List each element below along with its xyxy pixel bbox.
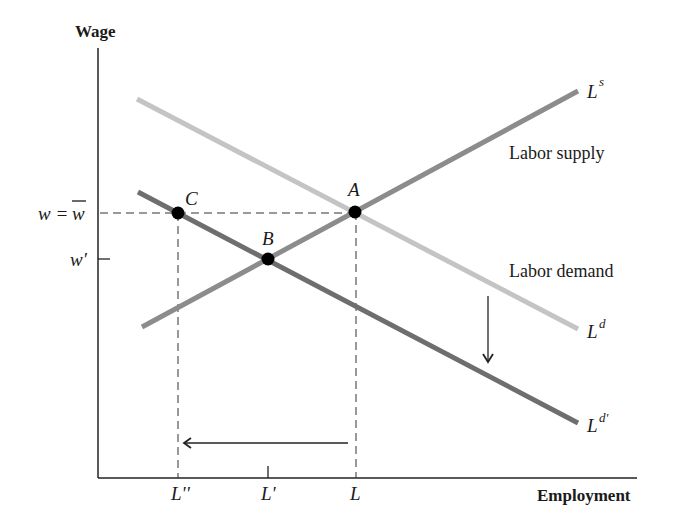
svg-text:L: L [586, 321, 598, 342]
point-c-marker [172, 207, 185, 220]
w-bar-label: w = w [38, 201, 86, 224]
svg-text:s: s [599, 74, 604, 89]
l-double-prime-label: L'' [170, 483, 191, 504]
curves [137, 91, 578, 423]
point-c-label: C [185, 188, 198, 209]
svg-text:w: w [72, 203, 85, 224]
ls-symbol: L s [586, 74, 604, 102]
labor-demand-label: Labor demand [509, 261, 613, 281]
svg-text:L: L [586, 415, 598, 436]
tick-marks [98, 259, 268, 478]
point-b-label: B [262, 228, 274, 249]
svg-text:L: L [586, 81, 598, 102]
point-a-marker [349, 206, 362, 219]
ld-symbol: L d [586, 316, 606, 342]
ld-prime-symbol: L d' [586, 410, 609, 436]
svg-text:d': d' [599, 410, 609, 425]
demand-shift-down-arrow [483, 296, 493, 362]
w-prime-label: w' [70, 249, 88, 270]
point-b-marker [262, 253, 275, 266]
employment-decrease-left-arrow [184, 438, 348, 448]
svg-text:d: d [599, 316, 606, 331]
arrows [184, 296, 493, 448]
labor-demand-shifted-curve [138, 192, 578, 423]
labor-market-diagram: Wage Employment A B C La [0, 0, 674, 532]
dashed-guides [100, 212, 356, 478]
l-prime-label: L' [260, 483, 277, 504]
y-axis-title: Wage [75, 22, 116, 41]
point-a-label: A [346, 179, 360, 200]
x-axis-title: Employment [537, 486, 631, 505]
l-label: L [349, 483, 361, 504]
svg-text:w =: w = [38, 203, 73, 224]
labor-supply-label: Labor supply [509, 143, 604, 163]
